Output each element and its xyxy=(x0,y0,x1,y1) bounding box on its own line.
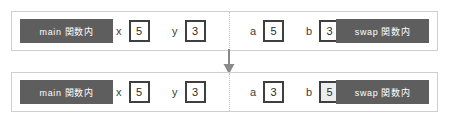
scope-label-swap-after: swap 関数内 xyxy=(336,80,429,104)
variable-name-x: x xyxy=(116,26,122,37)
variable-x-after: x 5 xyxy=(116,80,150,104)
variable-value-a: 3 xyxy=(263,81,284,103)
variable-name-a: a xyxy=(250,87,256,98)
variable-value-a: 5 xyxy=(263,20,284,42)
variable-y-before: y 3 xyxy=(172,19,206,43)
scope-divider xyxy=(229,73,230,111)
variable-value-y: 3 xyxy=(185,20,206,42)
scope-divider xyxy=(229,12,230,50)
state-panel-after: main 関数内 x 5 y 3 a 3 b 5 swap 関数内 xyxy=(11,72,438,112)
variable-a-before: a 5 xyxy=(250,19,284,43)
variable-name-a: a xyxy=(250,26,256,37)
scope-label-swap-before: swap 関数内 xyxy=(336,19,429,43)
variable-b-after: b 5 xyxy=(306,80,340,104)
variable-name-y: y xyxy=(172,26,178,37)
scope-label-main-after: main 関数内 xyxy=(20,80,113,104)
variable-name-x: x xyxy=(116,87,122,98)
variable-a-after: a 3 xyxy=(250,80,284,104)
state-panel-before: main 関数内 x 5 y 3 a 5 b 3 swap 関数内 xyxy=(11,11,438,51)
diagram-canvas: main 関数内 x 5 y 3 a 5 b 3 swap 関数内 xyxy=(0,0,449,121)
variable-y-after: y 3 xyxy=(172,80,206,104)
variable-name-y: y xyxy=(172,87,178,98)
variable-name-b: b xyxy=(306,87,312,98)
variable-name-b: b xyxy=(306,26,312,37)
variable-value-x: 5 xyxy=(129,81,150,103)
variable-value-x: 5 xyxy=(129,20,150,42)
scope-label-main-before: main 関数内 xyxy=(20,19,113,43)
variable-value-y: 3 xyxy=(185,81,206,103)
variable-b-before: b 3 xyxy=(306,19,340,43)
variable-x-before: x 5 xyxy=(116,19,150,43)
